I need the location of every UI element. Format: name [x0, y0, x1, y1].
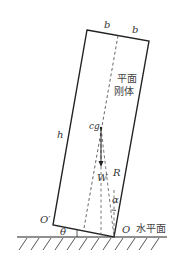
title-line-2: 刚体 [114, 87, 134, 97]
weight-arrow-head [99, 161, 104, 167]
label-h: h [57, 130, 63, 140]
label-alpha: α [112, 195, 119, 205]
cg-point [100, 127, 102, 129]
ground-hatch [19, 238, 159, 250]
label-O-prime: O′ [40, 215, 50, 225]
label-O: O [122, 225, 130, 235]
label-theta: θ [60, 227, 66, 237]
label-W: W [97, 173, 107, 183]
rigid-body-diagram: b b 平面 刚体 h cg W R α O′ θ O 水平面 [0, 0, 181, 265]
label-R: R [113, 168, 121, 178]
label-cg: cg [89, 122, 100, 131]
label-b-right: b [132, 25, 138, 35]
label-ground: 水平面 [136, 224, 166, 234]
alpha-marker [112, 210, 117, 211]
label-b-left: b [104, 20, 110, 30]
title-line-1: 平面 [117, 74, 137, 84]
